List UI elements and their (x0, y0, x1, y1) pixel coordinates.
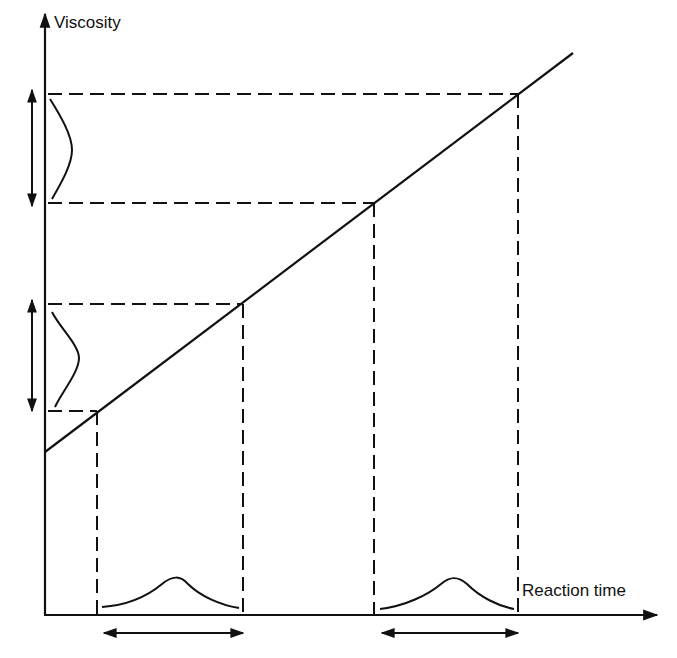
x-axis-label: Reaction time (522, 581, 626, 601)
y-axis-label: Viscosity (54, 13, 121, 33)
viscosity-reaction-time-diagram (0, 0, 677, 658)
horizontal-projections (48, 94, 518, 411)
x-distribution-right (380, 578, 514, 609)
y-distribution-lower (52, 312, 79, 407)
x-distribution-left (102, 578, 239, 608)
y-distribution-upper (50, 99, 72, 199)
vertical-projections (97, 94, 518, 615)
relation-line (45, 53, 573, 452)
